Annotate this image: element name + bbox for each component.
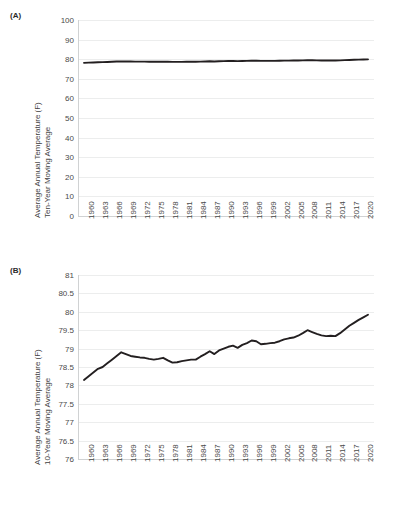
y-axis-tick-label: 50 (65, 114, 74, 123)
panel-a-y-axis-title: Average Annual Temperature (F) Ten-Year … (33, 102, 53, 218)
y-axis-tick-label: 0 (70, 212, 74, 221)
y-axis-tick-label: 80.5 (58, 289, 74, 298)
y-axis-tick-label: 30 (65, 153, 74, 162)
panel-a-plot-area: 1009080706050403020100196019631966196919… (78, 20, 374, 216)
panel-a-tag: (A) (10, 11, 21, 20)
y-axis-tick-label: 100 (61, 16, 74, 25)
panel-b-y-axis-title-line1: Average Annual Temperature (F) (33, 349, 43, 465)
panel-b-y-axis-title: Average Annual Temperature (F) 10-Year M… (33, 349, 53, 465)
panel-b-y-axis-title-line2: 10-Year Moving Average (43, 349, 53, 465)
y-axis-tick-label: 78 (65, 381, 74, 390)
panel-b: (B) Average Annual Temperature (F) 10-Ye… (0, 255, 404, 510)
panel-b-tag: (B) (10, 266, 21, 275)
series-line-b (78, 275, 374, 459)
y-axis-tick-label: 70 (65, 75, 74, 84)
y-axis-tick-label: 60 (65, 94, 74, 103)
y-axis-tick-label: 79.5 (58, 326, 74, 335)
y-axis-tick-label: 40 (65, 134, 74, 143)
y-axis-tick-label: 76.5 (58, 437, 74, 446)
y-axis-tick-label: 77 (65, 418, 74, 427)
y-axis-tick-label: 90 (65, 36, 74, 45)
y-axis-tick-label: 20 (65, 173, 74, 182)
panel-a-y-axis-title-line2: Ten-Year Moving Average (43, 102, 53, 218)
y-axis-tick-label: 80 (65, 55, 74, 64)
y-axis-tick-label: 10 (65, 192, 74, 201)
y-axis-tick-label: 78.5 (58, 363, 74, 372)
y-axis-tick-label: 77.5 (58, 400, 74, 409)
panel-a-y-axis-title-line1: Average Annual Temperature (F) (33, 102, 43, 218)
figure-container: (A) Average Annual Temperature (F) Ten-Y… (0, 0, 404, 510)
series-line-a (78, 20, 374, 216)
y-axis-tick-label: 81 (65, 271, 74, 280)
y-axis-tick-label: 76 (65, 455, 74, 464)
y-axis-tick-label: 80 (65, 308, 74, 317)
panel-a: (A) Average Annual Temperature (F) Ten-Y… (0, 0, 404, 255)
panel-b-plot-area: 8180.58079.57978.57877.57776.57619601963… (78, 275, 374, 459)
y-axis-tick-label: 79 (65, 345, 74, 354)
